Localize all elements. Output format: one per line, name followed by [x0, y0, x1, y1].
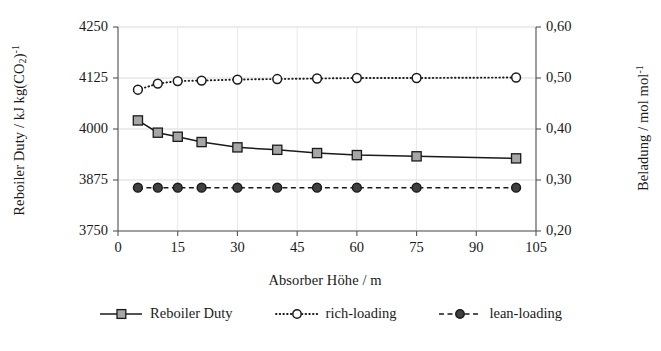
series-marker-1 — [273, 75, 282, 84]
series-marker-1 — [173, 77, 182, 86]
series-marker-1 — [233, 75, 242, 84]
series-marker-0 — [352, 151, 361, 160]
legend-item-0[interactable]: Reboiler Duty — [99, 305, 233, 322]
series-marker-2 — [352, 183, 361, 192]
chart-figure: Reboiler Duty / kJ kg(CO2)-1 Beladung / … — [0, 0, 661, 351]
legend-key-icon — [99, 306, 143, 322]
series-marker-0 — [133, 116, 142, 125]
series-marker-0 — [197, 137, 206, 146]
series-marker-1 — [134, 85, 143, 94]
series-marker-1 — [512, 73, 521, 82]
legend-item-2[interactable]: lean-loading — [438, 305, 561, 322]
legend-item-label: lean-loading — [489, 305, 561, 322]
legend-key-icon — [438, 306, 482, 322]
series-marker-0 — [233, 143, 242, 152]
series-marker-2 — [273, 183, 282, 192]
series-marker-2 — [233, 183, 242, 192]
series-marker-2 — [153, 183, 162, 192]
series-marker-0 — [312, 148, 321, 157]
series-line-1 — [138, 77, 516, 89]
series-marker-1 — [352, 74, 361, 83]
series-marker-2 — [173, 183, 182, 192]
series-marker-2 — [313, 183, 322, 192]
chart-legend: Reboiler Dutyrich-loadinglean-loading — [0, 305, 661, 322]
series-marker-0 — [273, 145, 282, 154]
legend-item-1[interactable]: rich-loading — [275, 305, 397, 322]
series-line-0 — [138, 120, 516, 158]
legend-item-label: Reboiler Duty — [150, 305, 233, 322]
series-marker-0 — [153, 128, 162, 137]
series-marker-0 — [511, 154, 520, 163]
series-marker-2 — [134, 183, 143, 192]
legend-key-icon — [275, 306, 319, 322]
legend-item-label: rich-loading — [326, 305, 397, 322]
series-marker-1 — [197, 76, 206, 85]
series-marker-2 — [412, 183, 421, 192]
series-marker-0 — [412, 152, 421, 161]
series-marker-2 — [512, 183, 521, 192]
series-marker-2 — [197, 183, 206, 192]
series-marker-1 — [153, 79, 162, 88]
series-marker-1 — [313, 74, 322, 83]
series-marker-0 — [173, 132, 182, 141]
plot-area — [0, 0, 661, 351]
series-marker-1 — [412, 74, 421, 83]
